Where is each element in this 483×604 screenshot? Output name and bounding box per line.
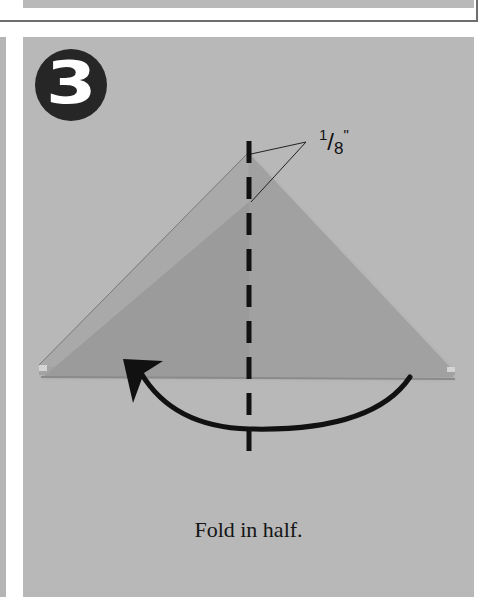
paper-corner-right [447,367,455,372]
measure-label: 1/8" [319,128,349,159]
step-panel: 3 1/8" Fold in half. [23,37,474,597]
adjacent-panel-edge [0,37,6,597]
measure-unit: " [343,126,348,143]
measure-slash: / [327,128,334,155]
previous-step-panel-edge [23,0,474,8]
measure-numerator: 1 [319,126,327,143]
step-number-badge: 3 [35,49,107,121]
step-number: 3 [46,54,96,112]
paper-corner-left [39,365,47,371]
fold-arrow-icon [141,373,410,429]
paper-triangle-right [249,155,453,377]
fold-diagram [23,37,474,597]
step-instruction: Fold in half. [23,517,474,543]
measure-leader-top [251,142,306,154]
